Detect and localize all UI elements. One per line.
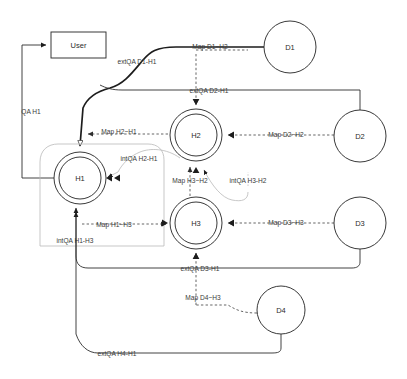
edge-map-h2-h1: Map H2~H1 [88,128,168,136]
edge-map-d1-h2: Map D1~H2 [192,43,248,106]
node-label-h3: H3 [191,219,201,228]
node-label-d1: D1 [285,43,295,52]
edge-map-d2-h2: Map D2~H2 [228,131,334,139]
node-label-h1: H1 [75,174,85,183]
node-label-d4: D4 [276,306,286,315]
node-label-h2: H2 [191,131,201,140]
node-d4[interactable]: D4 [257,286,305,334]
node-h3[interactable]: H3 [170,197,222,249]
edge-label-intqa-h3-h2: intQA H3-H2 [229,177,266,185]
edge-label-map-h3-h2: Map H3~H2 [172,177,208,185]
edge-label-extqa-h4-h1: extQA H4-H1 [98,350,137,358]
edge-label-map-d4-h3: Map D4~H3 [185,294,221,302]
node-h2[interactable]: H2 [170,109,222,161]
edge-label-extqa-d2-h1: extQA D2-H1 [190,87,229,95]
edge-label-qa-h1: QA H1 [21,108,41,116]
edge-label-map-h2-h1: Map H2~H1 [101,128,137,136]
diagram-svg: QA H1 extQA D1-H1 Map D1~H2 extQA D2-H1 … [0,0,407,379]
edge-map-h1-h3: Map H1~H3 [82,221,166,229]
node-label-d2: D2 [355,132,365,141]
node-label-user: User [71,41,87,50]
edge-map-d4-h3: Map D4~H3 [185,253,257,313]
node-d2[interactable]: D2 [334,110,386,162]
edge-extqa-d2-h1: extQA D2-H1 [100,85,360,110]
diagram-canvas: QA H1 extQA D1-H1 Map D1~H2 extQA D2-H1 … [0,0,407,379]
edge-label-map-d1-h2: Map D1~H2 [192,43,228,51]
edge-label-extqa-d1-h1: extQA D1-H1 [118,58,157,66]
edge-label-map-d3-h3: Map D3~H3 [268,219,304,227]
edge-label-extqa-d3-h1: extQA D3-H1 [181,265,220,273]
node-d1[interactable]: D1 [264,21,316,73]
edge-label-map-d2-h2: Map D2~H2 [268,131,304,139]
edge-qa-h1: QA H1 [21,45,54,178]
edge-label-map-h1-h3: Map H1~H3 [96,221,132,229]
edge-map-h3-h2: Map H3~H2 [172,167,208,196]
node-d3[interactable]: D3 [334,197,386,249]
edge-label-intqa-h1-h3: intQA H1-H3 [56,237,93,245]
node-user[interactable]: User [51,32,106,58]
edge-map-d3-h3: Map D3~H3 [228,219,334,227]
edge-label-intqa-h2-h1: intQA H2-H1 [120,155,157,163]
node-label-d3: D3 [355,219,365,228]
edge-intqa-h2-h1: intQA H2-H1 [108,150,180,177]
node-h1[interactable]: H1 [54,152,106,204]
edge-intqa-h3-h2: intQA H3-H2 [204,170,267,201]
